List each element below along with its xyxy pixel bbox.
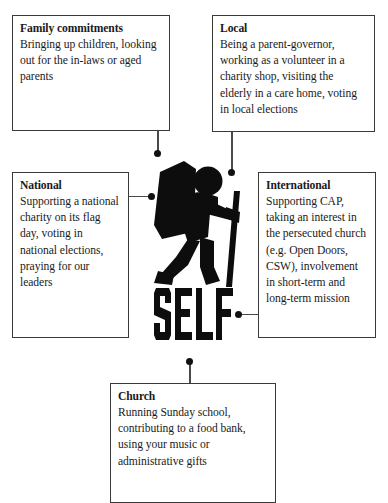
box-body-national: Supporting a national charity on its fla…: [20, 194, 121, 291]
box-international[interactable]: International Supporting CAP, taking an …: [258, 172, 376, 338]
box-body-local: Being a parent-governor, working as a vo…: [220, 37, 367, 118]
box-title-national: National: [20, 178, 121, 194]
connector-dot-international: [235, 311, 242, 318]
connector-line-church: [189, 363, 191, 384]
self-wordmark: [152, 286, 236, 342]
pilgrim-walker-icon: [148, 155, 248, 295]
box-church[interactable]: Church Running Sunday school, contributi…: [110, 383, 276, 503]
box-title-family: Family commitments: [20, 21, 162, 37]
connector-line-international: [240, 314, 259, 316]
connector-dot-church: [186, 358, 193, 365]
box-title-international: International: [266, 178, 368, 194]
box-body-church: Running Sunday school, contributing to a…: [118, 405, 268, 470]
box-family-commitments[interactable]: Family commitments Bringing up children,…: [12, 15, 170, 131]
box-title-local: Local: [220, 21, 367, 37]
box-national[interactable]: National Supporting a national charity o…: [12, 172, 129, 338]
scan-artefact: [60, 0, 360, 3]
box-local[interactable]: Local Being a parent-governor, working a…: [212, 15, 375, 132]
box-body-international: Supporting CAP, taking an interest in th…: [266, 194, 368, 307]
box-body-family: Bringing up children, looking out for th…: [20, 37, 162, 86]
box-title-church: Church: [118, 389, 268, 405]
